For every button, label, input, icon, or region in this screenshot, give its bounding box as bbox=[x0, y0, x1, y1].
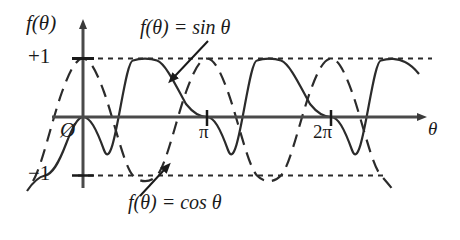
x-axis-label: θ bbox=[428, 119, 437, 138]
y-tick-label-plus1: +1 bbox=[28, 46, 50, 67]
y-tick-label-minus1: −1 bbox=[28, 163, 50, 184]
cosine-curve-label: f(θ) = cos θ bbox=[128, 192, 222, 212]
sine-cosine-figure: f(θ) +1 −1 Ø π 2π θ f(θ) = sin θ f(θ) = … bbox=[0, 0, 460, 240]
x-tick-label-2pi: 2π bbox=[313, 122, 332, 141]
sine-curve-label: f(θ) = sin θ bbox=[140, 17, 230, 37]
origin-label: Ø bbox=[60, 120, 75, 141]
y-axis-label: f(θ) bbox=[26, 13, 56, 34]
x-tick-label-pi: π bbox=[199, 122, 209, 141]
